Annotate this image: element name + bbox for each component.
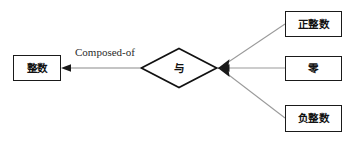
edge-positive-integer-line — [221, 24, 285, 67]
entity-label-zero: 零 — [308, 63, 319, 74]
entity-label-integer: 整数 — [27, 63, 48, 74]
entity-label-negative-integer: 负整数 — [298, 113, 330, 124]
relationship-diamond-shape — [141, 48, 216, 87]
edge-negative-integer-arrowhead — [218, 68, 230, 77]
entity-box-zero[interactable]: 零 — [285, 56, 342, 81]
composed-of-edge-label: Composed-of — [75, 47, 135, 58]
entity-label-positive-integer: 正整数 — [298, 19, 330, 30]
entity-box-integer[interactable]: 整数 — [13, 55, 61, 81]
edge-negative-integer-line — [221, 69, 285, 118]
er-diagram-canvas: 与 Composed-of 整数 正整数 零 负整数 — [0, 0, 351, 146]
entity-box-positive-integer[interactable]: 正整数 — [285, 11, 342, 37]
relationship-diamond[interactable] — [140, 47, 218, 89]
entity-box-negative-integer[interactable]: 负整数 — [285, 105, 342, 132]
edge-composed-of-arrowhead — [61, 64, 71, 71]
